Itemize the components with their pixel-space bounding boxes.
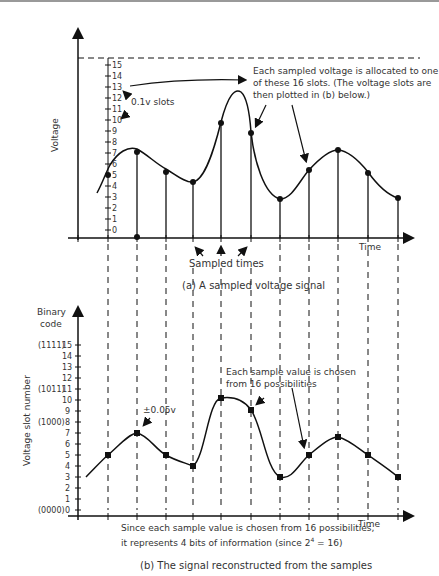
btick-12: 12: [62, 374, 72, 383]
tick-5: 5: [112, 171, 117, 180]
callout-line-2: of these 16 slots. (The voltage slots ar…: [253, 78, 431, 88]
tick-9: 9: [112, 127, 117, 136]
tick-11: 11: [112, 105, 122, 114]
tick-10: 10: [112, 116, 122, 125]
btick-3: 3: [65, 473, 70, 482]
tick-6: 6: [112, 160, 117, 169]
code-1011: (1011): [38, 385, 65, 394]
bottom-callout-line-2: from 16 possibilities: [226, 379, 317, 389]
btick-0: 0: [65, 506, 70, 515]
btick-5: 5: [65, 451, 70, 460]
footnote-line-1: Since each sample value is chosen from 1…: [121, 523, 374, 533]
tolerance-label: ±0.05v: [143, 405, 176, 415]
tick-8: 8: [112, 138, 117, 147]
btick-7: 7: [65, 429, 70, 438]
tick-12: 12: [112, 94, 122, 103]
reconstructed-signal: [86, 398, 398, 478]
btick-10: 10: [62, 396, 72, 405]
btick-15: 15: [62, 341, 72, 350]
callout-line-1: Each sampled voltage is allocated to one: [253, 66, 438, 76]
btick-1: 1: [65, 495, 70, 504]
sample-points: [105, 120, 401, 240]
bottom-caption: (b) The signal reconstructed from the sa…: [140, 560, 372, 571]
top-x-axis-label: Time: [359, 242, 381, 252]
btick-8: 8: [65, 418, 70, 427]
tick-0: 0: [112, 226, 117, 235]
callout-line-3: then plotted in (b) below.): [253, 90, 370, 100]
tick-2: 2: [112, 204, 117, 213]
tick-1: 1: [112, 215, 117, 224]
slot-annotation: 0.1v slots: [131, 97, 174, 107]
top-y-axis-label: Voltage: [50, 118, 60, 152]
tick-15: 15: [112, 61, 122, 70]
bottom-y-axis-label: Voltage slot number: [22, 375, 32, 466]
btick-9: 9: [65, 407, 70, 416]
tick-7: 7: [112, 149, 117, 158]
code-1111: (1111): [38, 341, 65, 350]
top-caption: (a) A sampled voltage signal: [182, 280, 325, 291]
btick-11: 11: [62, 385, 72, 394]
tick-3: 3: [112, 193, 117, 202]
footnote-post: = 16): [314, 538, 342, 548]
bottom-callout-line-1: Each sample value is chosen: [226, 367, 356, 377]
btick-13: 13: [62, 363, 72, 372]
sampled-times-label: Sampled times: [189, 258, 264, 269]
binary-header-line-2: code: [40, 319, 62, 329]
btick-14: 14: [62, 352, 72, 361]
code-0000: (0000): [38, 506, 65, 515]
btick-6: 6: [65, 440, 70, 449]
footnote-line-2: it represents 4 bits of information (sin…: [121, 536, 342, 548]
tick-14: 14: [112, 72, 122, 81]
bottom-panel: [68, 308, 412, 520]
footnote-pre: it represents 4 bits of information (sin…: [121, 538, 310, 548]
tick-4: 4: [112, 182, 117, 191]
tick-13: 13: [112, 83, 122, 92]
binary-header-line-1: Binary: [37, 307, 66, 317]
btick-2: 2: [65, 484, 70, 493]
sample-stems: [137, 122, 398, 238]
analog-signal: [97, 91, 398, 199]
code-1000: (1000): [38, 418, 65, 427]
btick-4: 4: [65, 462, 70, 471]
